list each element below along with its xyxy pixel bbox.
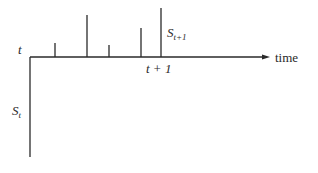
t-plus-1-label: t + 1	[146, 62, 171, 75]
time-axis-arrowhead-icon	[262, 55, 270, 60]
s-t-subscript: t	[19, 110, 22, 120]
time-axis-label: time	[275, 51, 298, 64]
timeline-diagram	[0, 0, 318, 173]
s-t-label: St	[12, 104, 21, 120]
t-label: t	[18, 43, 22, 56]
spike-group	[55, 8, 161, 57]
s-t-plus-1-label: St+1	[167, 26, 187, 42]
s-t-plus-1-subscript: t+1	[174, 32, 187, 42]
